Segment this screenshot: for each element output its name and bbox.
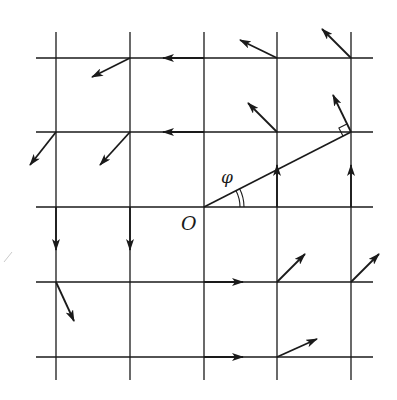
angle-arc-line: [236, 191, 240, 207]
stray-mark: [4, 252, 12, 262]
origin-label: O: [181, 212, 197, 234]
vector-arrow-icon: [56, 282, 74, 321]
vector-arrow-icon: [322, 29, 351, 58]
vector-arrow-icon: [277, 339, 317, 357]
diagram-drawing: [0, 0, 397, 400]
vector-arrow-icon: [351, 254, 379, 282]
vector-arrow-icon: [240, 40, 277, 58]
vector-field-diagram: O φ: [0, 0, 397, 400]
vector-arrow-icon: [248, 103, 277, 132]
angle-arc: [236, 189, 244, 207]
vector-arrow-icon: [277, 254, 305, 282]
vector-arrow-icon: [100, 132, 130, 165]
vector-arrow-icon: [92, 58, 130, 77]
angle-label-phi: φ: [221, 167, 233, 187]
vector-arrow-icon: [30, 132, 56, 165]
